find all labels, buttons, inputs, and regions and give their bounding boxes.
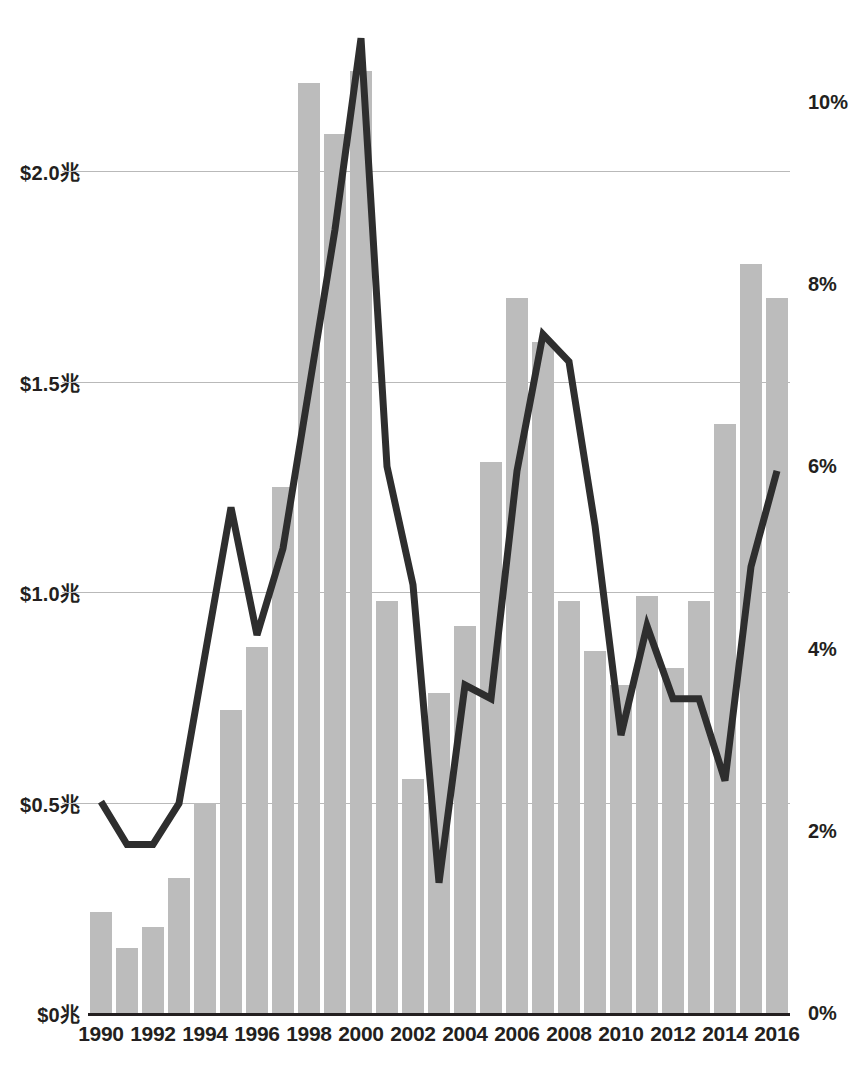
bar-2007 (532, 342, 554, 1013)
bar-1998 (298, 83, 320, 1013)
bar-1997 (272, 487, 294, 1013)
left-tick-stub-1 (62, 803, 88, 804)
x-tick-label-1998: 1998 (286, 1022, 332, 1046)
bar-2016 (766, 298, 788, 1013)
bar-1993 (168, 878, 190, 1013)
x-tick-label-2010: 2010 (598, 1022, 644, 1046)
x-tick-label-1990: 1990 (78, 1022, 124, 1046)
right-tick-label-5: 10% (808, 90, 848, 113)
x-tick-label-1996: 1996 (234, 1022, 280, 1046)
x-axis-labels: 1990199219941996199820002002200420062008… (88, 1022, 790, 1058)
left-tick-stub-4 (62, 171, 88, 172)
bar-2000 (350, 71, 372, 1014)
bar-2010 (610, 685, 632, 1013)
x-tick-label-2008: 2008 (546, 1022, 592, 1046)
bar-2008 (558, 601, 580, 1013)
bar-2012 (662, 668, 684, 1013)
bar-1990 (90, 912, 112, 1013)
bar-1999 (324, 134, 346, 1013)
x-tick-label-2002: 2002 (390, 1022, 436, 1046)
x-tick-label-2012: 2012 (650, 1022, 696, 1046)
right-tick-label-1: 2% (808, 819, 837, 842)
x-tick-label-1992: 1992 (130, 1022, 176, 1046)
right-tick-label-3: 6% (808, 455, 837, 478)
x-tick-label-2006: 2006 (494, 1022, 540, 1046)
bar-2015 (740, 264, 762, 1013)
bar-series (88, 20, 790, 1013)
bar-2001 (376, 601, 398, 1013)
left-tick-stub-3 (62, 382, 88, 383)
bar-2013 (688, 601, 710, 1013)
bar-2006 (506, 298, 528, 1013)
bar-2009 (584, 651, 606, 1013)
x-tick-label-2004: 2004 (442, 1022, 488, 1046)
right-tick-label-4: 8% (808, 273, 837, 296)
right-axis-labels: 0%2%4%6%8%10% (800, 0, 868, 1085)
chart-root: $0兆$0.5兆$1.0兆$1.5兆$2.0兆 0%2%4%6%8%10% 19… (0, 0, 868, 1085)
x-tick-label-1994: 1994 (182, 1022, 228, 1046)
bar-1994 (194, 803, 216, 1013)
x-tick-label-2016: 2016 (754, 1022, 800, 1046)
bar-2014 (714, 424, 736, 1013)
right-tick-label-2: 4% (808, 637, 837, 660)
bar-1991 (116, 948, 138, 1013)
x-axis-baseline (88, 1013, 790, 1016)
left-tick-stub-2 (62, 592, 88, 593)
right-tick-label-0: 0% (808, 1002, 837, 1025)
left-tick-label-0: $0兆 (37, 999, 80, 1028)
bar-1992 (142, 927, 164, 1013)
bar-2002 (402, 779, 424, 1013)
bar-2011 (636, 596, 658, 1013)
bar-1995 (220, 710, 242, 1013)
x-tick-label-2014: 2014 (702, 1022, 748, 1046)
bar-2005 (480, 462, 502, 1013)
bar-2003 (428, 693, 450, 1013)
plot-area (88, 20, 790, 1013)
bar-2004 (454, 626, 476, 1013)
bar-1996 (246, 647, 268, 1013)
left-axis-labels: $0兆$0.5兆$1.0兆$1.5兆$2.0兆 (0, 0, 80, 1085)
x-tick-label-2000: 2000 (338, 1022, 384, 1046)
